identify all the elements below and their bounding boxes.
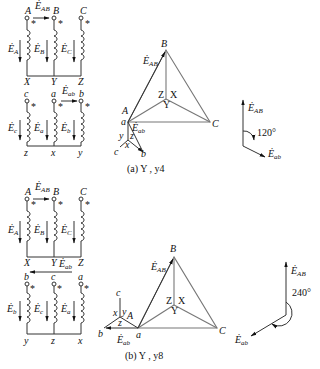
svg-text:*: * <box>31 199 36 210</box>
svg-text:z: z <box>117 317 122 328</box>
winding-diagram-a: A B C ĖAB * ĖA * ĖB * <box>7 0 90 158</box>
svg-text:*: * <box>85 199 90 210</box>
coil-B: * ĖB <box>33 16 63 76</box>
svg-text:b: b <box>98 328 103 339</box>
terminal-A: A <box>24 5 32 16</box>
end-x-b: x <box>77 335 83 346</box>
svg-text:b: b <box>141 148 146 159</box>
end-x: x <box>50 147 56 158</box>
terminal-A-b: A <box>24 186 32 197</box>
caption-a: (a) Y , y4 <box>127 163 165 175</box>
phasor-diagram-b: B C a ĖAB Z X Y c x y A z b Ėab <box>98 243 226 347</box>
coil-b: * Ėb <box>60 99 90 146</box>
angle-diagram-b: ĖAB 240° Ėab <box>234 262 311 347</box>
svg-text:Ėa: Ėa <box>60 303 71 316</box>
svg-text:ĖAB: ĖAB <box>142 55 158 68</box>
end-y: y <box>77 147 83 158</box>
terminal-C: C <box>80 5 87 16</box>
svg-text:ĖAB: ĖAB <box>247 102 263 115</box>
terminal-c-b: c <box>51 271 56 282</box>
emf-B: ĖB <box>33 43 45 56</box>
svg-text:Ėab: Ėab <box>267 148 282 161</box>
secondary-star-a: Ėab y z x c b <box>114 122 146 159</box>
svg-text:ĖB: ĖB <box>33 224 45 237</box>
svg-text:X: X <box>178 295 186 306</box>
svg-text:c: c <box>114 146 119 157</box>
svg-text:z: z <box>129 130 134 141</box>
end-z: z <box>23 147 28 158</box>
end-Y: Y <box>51 76 58 87</box>
svg-text:Y: Y <box>171 305 178 316</box>
svg-text:y: y <box>118 130 124 141</box>
end-Y-b: Y <box>51 257 58 268</box>
primary-winding-a: A B C ĖAB * ĖA * ĖB * <box>7 0 90 87</box>
svg-text:ĖA: ĖA <box>7 224 19 237</box>
svg-text:ĖAB: ĖAB <box>290 265 306 278</box>
svg-text:Ėb: Ėb <box>60 122 71 135</box>
svg-text:*: * <box>58 101 63 112</box>
terminal-B-b: B <box>53 186 59 197</box>
svg-text:Ėc: Ėc <box>7 122 18 135</box>
transformer-connection-diagrams: A B C ĖAB * ĖA * ĖB * <box>0 0 320 369</box>
caption-b: (b) Y , y8 <box>125 350 163 362</box>
terminal-c: c <box>24 88 29 99</box>
terminal-a: a <box>51 88 56 99</box>
vertex-B-b: B <box>170 243 176 254</box>
svg-text:*: * <box>31 18 36 29</box>
svg-text:*: * <box>31 101 36 112</box>
svg-text:ĖC: ĖC <box>60 43 72 56</box>
end-y-b: y <box>23 335 29 346</box>
terminal-b: b <box>79 88 84 99</box>
end-Z-b: Z <box>78 257 84 268</box>
angle-label-120: 120° <box>257 127 276 138</box>
svg-text:Y: Y <box>163 99 170 110</box>
svg-text:*: * <box>85 18 90 29</box>
svg-text:Ėb: Ėb <box>6 303 17 316</box>
vertex-C: C <box>212 118 219 129</box>
vertex-A: A <box>121 105 129 116</box>
angle-label-240: 240° <box>292 287 311 298</box>
svg-text:Ėab: Ėab <box>234 334 249 347</box>
svg-text:Ėab: Ėab <box>116 334 131 347</box>
secondary-star-b: c x y A z b Ėab <box>98 287 138 347</box>
vertex-a-b: a <box>136 329 141 340</box>
vertex-a: a <box>121 116 126 127</box>
end-z-b: z <box>50 335 55 346</box>
svg-text:*: * <box>84 283 89 294</box>
svg-text:*: * <box>57 283 62 294</box>
svg-text:x: x <box>124 139 130 150</box>
svg-text:ĖAB: ĖAB <box>150 261 166 274</box>
svg-text:ĖA: ĖA <box>7 43 19 56</box>
svg-text:X: X <box>170 89 178 100</box>
end-X-b: X <box>23 257 31 268</box>
vertex-C-b: C <box>219 325 226 336</box>
svg-text:*: * <box>58 18 63 29</box>
svg-text:c: c <box>116 287 121 298</box>
svg-text:*: * <box>30 283 35 294</box>
line-emf-label-AB: ĖAB <box>34 0 50 13</box>
end-X: X <box>23 76 31 87</box>
svg-text:Ėc: Ėc <box>33 303 44 316</box>
svg-text:Ėa: Ėa <box>33 122 44 135</box>
secondary-winding-a: c a b Ėab * Ėc * Ėa * <box>7 85 90 158</box>
terminal-C-b: C <box>80 186 87 197</box>
coil-c: * Ėc <box>7 99 36 146</box>
svg-text:*: * <box>85 101 90 112</box>
svg-text:A: A <box>126 310 134 321</box>
svg-text:ĖAB: ĖAB <box>34 181 50 194</box>
winding-diagram-b: A B C ĖAB * ĖA * ĖB * ĖC X Y Z Ėab b c <box>6 181 90 346</box>
phasor-diagram-a: B C A a ĖAB Z X Y Ėab y z x c b <box>114 38 219 159</box>
terminal-a-b: a <box>78 271 83 282</box>
coil-a: * Ėa <box>33 99 63 146</box>
angle-diagram-a: ĖAB 120° Ėab <box>243 100 282 161</box>
svg-text:Ėab: Ėab <box>61 85 76 98</box>
end-Z: Z <box>78 76 84 87</box>
terminal-b-b: b <box>24 271 29 282</box>
terminal-B: B <box>53 5 59 16</box>
svg-text:*: * <box>58 199 63 210</box>
vertex-B: B <box>161 38 167 49</box>
svg-text:Ėab: Ėab <box>58 258 73 271</box>
coil-C: * ĖC <box>60 16 90 76</box>
coil-A: * ĖA <box>7 16 36 76</box>
svg-text:ĖC: ĖC <box>60 224 72 237</box>
